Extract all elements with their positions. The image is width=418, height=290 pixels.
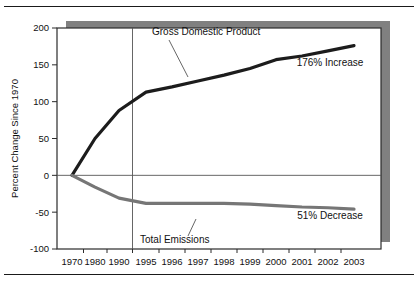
x-axis-tick-label: 2003 <box>343 256 364 267</box>
x-axis-tick-label: 2002 <box>317 256 338 267</box>
y-axis-tick-label: -100 <box>30 243 49 254</box>
x-axis-tick-label: 1997 <box>187 256 208 267</box>
x-axis-tick-label: 1999 <box>239 256 260 267</box>
x-axis-tick-label: 1996 <box>161 256 182 267</box>
x-axis-tick-label: 1980 <box>84 256 105 267</box>
y-axis-tick-label: 200 <box>33 22 49 33</box>
line-chart: 200150100500-50-100Percent Change Since … <box>0 0 418 290</box>
y-axis-tick-label: 50 <box>38 133 49 144</box>
y-axis-tick-label: 150 <box>33 59 49 70</box>
y-axis-tick-label: 100 <box>33 96 49 107</box>
x-axis-tick-label: 1970 <box>61 256 82 267</box>
x-axis-tick-label: 1998 <box>213 256 234 267</box>
annotation-emissions-decrease: 51% Decrease <box>297 210 363 221</box>
annotation-emissions-label: Total Emissions <box>140 234 209 245</box>
x-axis-tick-label: 2001 <box>291 256 312 267</box>
y-axis-title: Percent Change Since 1970 <box>9 79 20 198</box>
y-axis-tick-label: -50 <box>35 207 49 218</box>
x-axis-tick-label: 1990 <box>108 256 129 267</box>
x-axis-tick-label: 1995 <box>135 256 156 267</box>
x-axis-tick-label: 2000 <box>265 256 286 267</box>
annotation-gdp-label: Gross Domestic Product <box>152 26 261 37</box>
annotation-gdp-increase: 176% Increase <box>297 57 364 68</box>
chart-figure: 200150100500-50-100Percent Change Since … <box>0 0 418 290</box>
y-axis-tick-label: 0 <box>44 170 49 181</box>
